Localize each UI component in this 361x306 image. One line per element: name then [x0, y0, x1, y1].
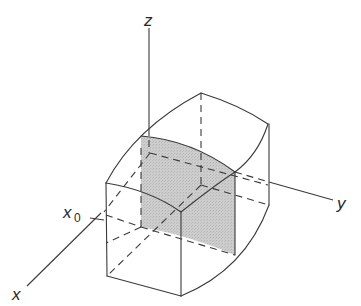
x0-label: x [62, 203, 72, 222]
z-axis-label: z [143, 11, 153, 30]
x-axis [27, 213, 101, 286]
diagram-canvas: z y x x 0 [0, 0, 361, 306]
x-axis-label: x [11, 285, 21, 304]
x0-tick [90, 218, 104, 220]
x0-subscript: 0 [74, 211, 81, 225]
y-axis-label: y [336, 194, 347, 213]
y-axis [269, 182, 333, 200]
